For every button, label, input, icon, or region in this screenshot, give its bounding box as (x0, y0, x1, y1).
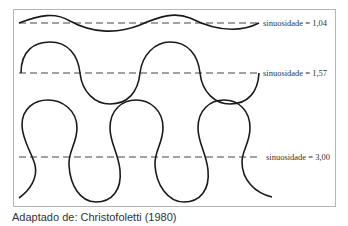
sinuosity-label-high: sinuosidade = 3,00 (266, 152, 330, 162)
row-high-sinuosity: sinuosidade = 3,00 (19, 100, 330, 202)
row-medium-sinuosity: sinuosidade = 1,57 (19, 42, 327, 104)
sinuosity-label-medium: sinuosidade = 1,57 (263, 68, 327, 78)
channel-curve-high (19, 100, 272, 202)
row-low-sinuosity: sinuosidade = 1,04 (19, 15, 328, 31)
source-caption: Adaptado de: Christofoletti (1980) (12, 211, 177, 223)
sinuosity-label-low: sinuosidade = 1,04 (263, 18, 328, 28)
sinuosity-diagram: sinuosidade = 1,04 sinuosidade = 1,57 si… (0, 0, 348, 226)
